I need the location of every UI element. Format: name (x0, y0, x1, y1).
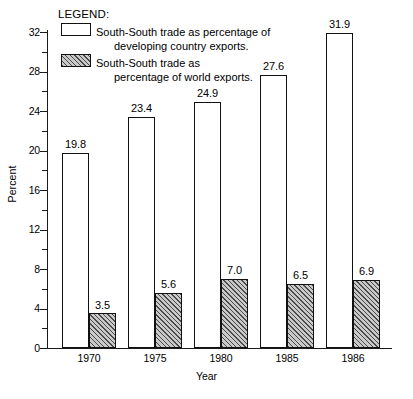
bar-value-hatched-1985: 6.5 (279, 270, 322, 281)
x-tick-label-1985: 1985 (265, 353, 309, 364)
legend: LEGEND: South-South trade as percentage … (58, 8, 348, 84)
bar-open-1980 (194, 102, 221, 348)
bar-hatched-1980 (221, 279, 248, 348)
bar-value-hatched-1970: 3.5 (81, 300, 124, 311)
legend-label-open: South-South trade as percentage of devel… (96, 26, 348, 52)
bar-open-1975 (128, 117, 155, 348)
legend-swatch-hatched-square (61, 54, 91, 67)
bar-hatched-1970 (89, 313, 116, 348)
bar-chart: Percent 0 4 8 12 16 20 24 28 32 1 (0, 0, 413, 399)
y-tick-label: 20 (18, 145, 40, 156)
y-tick-label: 32 (18, 27, 40, 38)
y-tick-label: 24 (18, 106, 40, 117)
legend-swatch-open-square (61, 23, 91, 36)
legend-label-open-line2: developing country exports. (96, 40, 348, 52)
legend-entry-open: South-South trade as percentage of devel… (58, 22, 348, 52)
y-axis-line (47, 30, 48, 349)
bar-open-1970 (62, 153, 89, 349)
bar-value-hatched-1975: 5.6 (147, 279, 190, 290)
y-tick-label: 4 (18, 303, 40, 314)
bar-value-hatched-1986: 6.9 (345, 266, 388, 277)
x-tick-label-1986: 1986 (331, 353, 375, 364)
bar-value-open-1980: 24.9 (186, 88, 229, 99)
bar-value-hatched-1980: 7.0 (213, 265, 256, 276)
legend-entry-hatched: South-South trade as percentage of world… (58, 53, 348, 83)
bar-value-open-1970: 19.8 (54, 139, 97, 150)
y-tick-label: 12 (18, 224, 40, 235)
y-tick-label: 0 (18, 343, 40, 354)
bar-value-open-1975: 23.4 (120, 103, 163, 114)
legend-label-hatched-line1: South-South trade as (96, 57, 200, 69)
bar-open-1985 (260, 75, 287, 348)
y-tick-label: 8 (18, 264, 40, 275)
x-tick-label-1975: 1975 (133, 353, 177, 364)
legend-label-hatched-line2: percentage of world exports. (96, 71, 348, 83)
x-axis-title: Year (0, 370, 413, 382)
bar-hatched-1975 (155, 293, 182, 348)
legend-label-open-line1: South-South trade as percentage of (96, 26, 270, 38)
x-axis-line (47, 348, 392, 349)
legend-label-hatched: South-South trade as percentage of world… (96, 57, 348, 83)
bar-hatched-1985 (287, 284, 314, 348)
y-tick-label: 16 (18, 185, 40, 196)
legend-title: LEGEND: (58, 8, 348, 21)
y-tick-label: 28 (18, 66, 40, 77)
bar-hatched-1986 (353, 280, 380, 348)
x-tick-label-1970: 1970 (67, 353, 111, 364)
x-tick-label-1980: 1980 (199, 353, 243, 364)
